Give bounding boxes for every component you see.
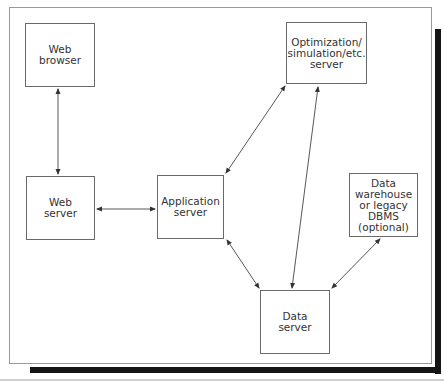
node-label: Application server — [161, 196, 220, 218]
node-application-server: Application server — [157, 175, 224, 239]
node-label: Optimization/ simulation/etc. server — [288, 37, 366, 70]
node-label: Web browser — [39, 44, 81, 66]
edge-appserver-optimization — [226, 86, 285, 173]
node-label: Data server — [278, 311, 311, 333]
edge-warehouse-dataserver — [332, 239, 380, 288]
node-optimization-server: Optimization/ simulation/etc. server — [286, 22, 367, 84]
node-label: Data warehouse or legacy DBMS (optional) — [355, 178, 412, 233]
node-data-warehouse: Data warehouse or legacy DBMS (optional) — [349, 173, 418, 237]
edge-optimization-dataserver — [292, 87, 318, 288]
node-web-server: Web server — [26, 176, 95, 240]
node-web-browser: Web browser — [25, 23, 95, 87]
edge-appserver-dataserver — [227, 240, 259, 288]
node-data-server: Data server — [260, 290, 330, 354]
node-label: Web server — [44, 197, 77, 219]
